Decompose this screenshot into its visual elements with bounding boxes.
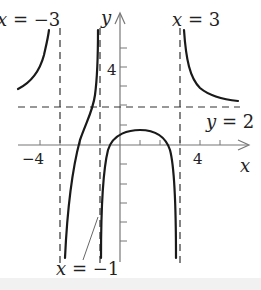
function-curve xyxy=(18,30,238,258)
branch-right xyxy=(184,30,238,101)
graph-canvas: −4 4 4 x y x = −3 x = 3 y = 2 x = −1 xyxy=(0,0,261,290)
branch-middle-left xyxy=(65,30,98,258)
x-axis-ticks xyxy=(40,140,220,145)
label-leader-line xyxy=(83,217,98,260)
y-axis-label: y xyxy=(100,7,112,28)
tick-label-neg4: −4 xyxy=(22,150,44,168)
asymptote-label-x-3: x = 3 xyxy=(172,9,220,30)
bottom-strip xyxy=(0,278,261,290)
asymptote-label-y-2: y = 2 xyxy=(205,111,254,132)
branch-left xyxy=(18,30,49,89)
asymptote-label-x-neg3: x = −3 xyxy=(0,9,60,30)
x-axis-label: x xyxy=(240,155,250,176)
branch-center xyxy=(101,130,176,258)
asymptote-label-x-neg1: x = −1 xyxy=(56,258,119,279)
x-axis xyxy=(18,140,249,150)
asymptote-lines xyxy=(18,28,240,265)
tick-label-4-y: 4 xyxy=(107,61,117,79)
tick-label-4-x: 4 xyxy=(193,150,203,168)
